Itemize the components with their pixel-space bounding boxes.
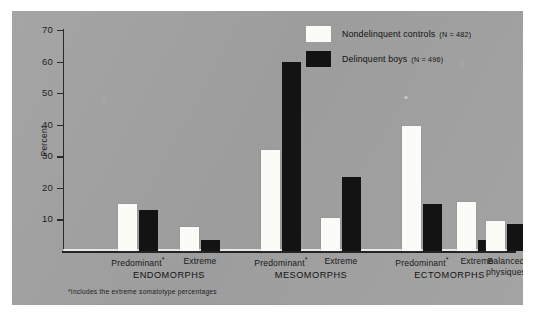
plot-area: 10203040506070 Percent <box>63 30 515 251</box>
y-tick-70: 70 <box>57 30 63 31</box>
y-tick-40: 40 <box>57 125 63 126</box>
bar-delinquent-4 <box>423 204 442 251</box>
y-tick-label-20: 20 <box>42 182 53 193</box>
x-group-label-ectomorphs: ECTOMORPHS <box>414 270 485 280</box>
bar-delinquent-6 <box>507 224 523 251</box>
chart-plate: Nondelinquent controls(N = 482) Delinque… <box>12 11 523 305</box>
y-tick-20: 20 <box>57 188 63 189</box>
bar-delinquent-1 <box>201 240 220 251</box>
bar-delinquent-0 <box>139 210 158 251</box>
y-tick-60: 60 <box>57 62 63 63</box>
x-tick-label-text-3: Extreme <box>324 256 357 266</box>
x-tick-label-text-2: Predominant <box>254 258 304 268</box>
bar-delinquent-3 <box>342 177 361 251</box>
x-tick-label-text-4: Predominant <box>395 258 445 268</box>
y-tick-label-60: 60 <box>42 56 53 67</box>
y-tick-10: 10 <box>57 219 63 220</box>
bar-nondelinquent-1 <box>180 227 199 251</box>
x-tick-label-4: Predominant* <box>395 256 448 268</box>
x-axis-line <box>62 251 516 253</box>
x-tick-footnote-marker-2: * <box>305 256 308 263</box>
x-tick-footnote-marker-0: * <box>162 256 165 263</box>
x-tick-label-text-1: Extreme <box>183 256 216 266</box>
x-tick-label-3: Extreme <box>324 256 357 266</box>
x-tick-label-2: Predominant* <box>254 256 307 268</box>
bar-delinquent-2 <box>282 62 301 251</box>
x-tick-label-text-6: Balanced <box>487 256 523 266</box>
x-tick-label-0: Predominant* <box>111 256 164 268</box>
x-tick-label-1: Extreme <box>183 256 216 266</box>
bar-nondelinquent-2 <box>261 150 280 251</box>
x-group-label-mesomorphs: MESOMORPHS <box>275 270 347 280</box>
x-tick-label-text-0: Predominant <box>111 258 161 268</box>
chart-footnote: *Includes the extreme somatotype percent… <box>68 288 217 295</box>
bar-nondelinquent-0 <box>118 204 137 251</box>
x-axis-labels: Predominant*ExtremePredominant*ExtremePr… <box>63 256 515 302</box>
y-tick-30: 30 <box>57 156 63 157</box>
figure: Nondelinquent controls(N = 482) Delinque… <box>0 0 535 326</box>
y-tick-label-70: 70 <box>42 24 53 35</box>
y-axis-line <box>63 29 64 252</box>
x-group-label-endomorphs: ENDOMORPHS <box>133 270 205 280</box>
bar-nondelinquent-6 <box>486 221 505 251</box>
bar-nondelinquent-5 <box>457 202 476 251</box>
bar-nondelinquent-4 <box>402 126 421 251</box>
bar-nondelinquent-3 <box>321 218 340 251</box>
x-tick-label-6: Balancedphysiques <box>486 256 523 277</box>
y-tick-50: 50 <box>57 93 63 94</box>
x-tick-footnote-marker-4: * <box>446 256 449 263</box>
y-axis-label: Percent <box>39 125 49 156</box>
y-tick-label-50: 50 <box>42 87 53 98</box>
x-tick-label-text2-6: physiques <box>486 267 523 277</box>
y-tick-label-10: 10 <box>42 214 53 225</box>
